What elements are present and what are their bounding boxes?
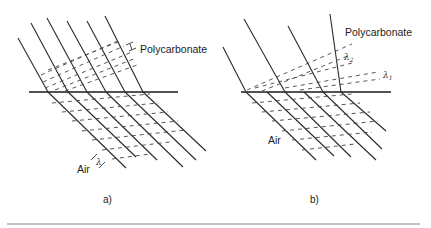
panel-a: Polycarbonate λ Air a) [18,16,207,205]
refraction-diagram: Polycarbonate λ Air a) [0,0,431,228]
label-air-b: Air [268,134,281,146]
label-polycarbonate-b: Polycarbonate [345,26,412,38]
wavefronts-upper-b [247,44,380,91]
wavefronts-lower-a [52,94,186,159]
rays-upper-b [223,14,341,92]
lambda-2-symbol: λ2 [343,52,354,63]
lambda-symbol-a: λ [95,157,102,167]
wavelength-marker-upper-a [126,42,136,51]
caption-a: a) [103,194,112,205]
panel-b: Polycarbonate λ2 λ1 Air b) [223,14,412,205]
caption-b: b) [310,194,319,205]
rays-lower-b [246,92,386,160]
label-polycarbonate-a: Polycarbonate [140,43,207,55]
lambda-1-symbol: λ1 [382,70,393,81]
rays-upper-a [18,16,143,92]
wavefronts-upper-a [41,40,140,91]
label-air-a: Air [77,163,90,175]
